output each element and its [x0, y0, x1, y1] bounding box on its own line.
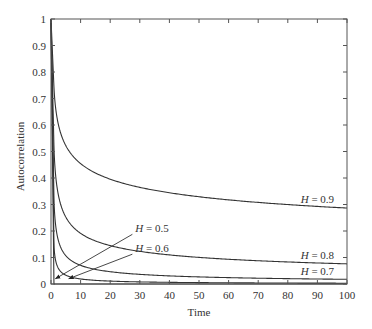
annotation-label: H = 0.6	[134, 242, 169, 254]
curve-h-05	[51, 19, 347, 284]
x-tick-label: 50	[194, 289, 206, 301]
x-tick-label: 60	[223, 289, 235, 301]
data-curves	[51, 19, 347, 284]
y-axis-label: Autocorrelation	[14, 121, 26, 191]
y-tick-label: 0.9	[32, 40, 46, 52]
y-tick-label: 0.1	[32, 252, 46, 264]
x-tick-label: 100	[339, 289, 356, 301]
y-tick-label: 0.4	[32, 172, 46, 184]
y-tick-label: 1	[41, 13, 47, 25]
x-tick-label: 20	[105, 289, 117, 301]
autocorrelation-chart: 010203040506070809010000.10.20.30.40.50.…	[0, 0, 372, 329]
x-tick-label: 70	[253, 289, 265, 301]
y-tick-label: 0.3	[32, 199, 46, 211]
annotation-label: H = 0.5	[134, 222, 169, 234]
plot-frame	[51, 19, 347, 284]
x-tick-label: 30	[134, 289, 146, 301]
y-tick-label: 0.8	[32, 66, 46, 78]
annotation-label: H = 0.8	[300, 249, 335, 261]
curve-h-06	[51, 19, 347, 283]
y-tick-label: 0.6	[32, 119, 46, 131]
annotation-label: H = 0.7	[300, 265, 335, 277]
y-tick-label: 0.7	[32, 93, 46, 105]
curve-annotations: H = 0.9H = 0.8H = 0.7H = 0.5H = 0.6	[55, 193, 334, 279]
y-tick-label: 0.5	[32, 146, 46, 158]
x-tick-label: 80	[282, 289, 294, 301]
x-tick-label: 10	[75, 289, 87, 301]
curve-h-09	[51, 19, 347, 208]
x-tick-label: 0	[48, 289, 54, 301]
x-axis-label: Time	[188, 306, 211, 318]
x-tick-label: 90	[312, 289, 324, 301]
annotation-label: H = 0.9	[300, 193, 335, 205]
y-tick-label: 0	[41, 278, 47, 290]
x-tick-label: 40	[164, 289, 176, 301]
curve-h-08	[51, 19, 347, 264]
curve-h-07	[51, 19, 347, 279]
annotation-arrow	[69, 254, 133, 279]
y-tick-label: 0.2	[32, 225, 46, 237]
